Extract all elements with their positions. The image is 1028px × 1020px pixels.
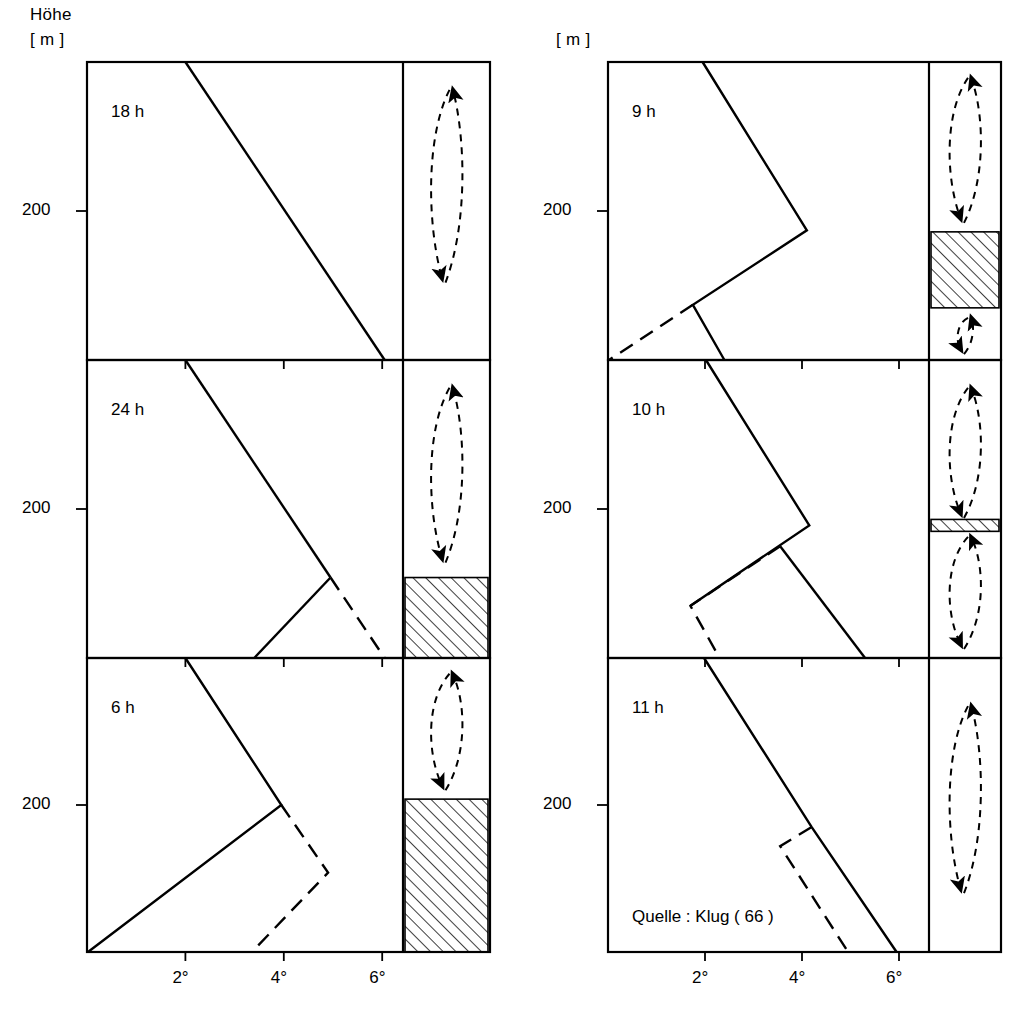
y-tick-label-200: 200 bbox=[543, 200, 571, 220]
x-tick-label-2°: 2° bbox=[172, 968, 188, 988]
x-tick-label-6°: 6° bbox=[369, 968, 385, 988]
circulation-down-arc bbox=[950, 78, 968, 217]
profile-line-dashed bbox=[609, 305, 693, 360]
x-tick-label-4°: 4° bbox=[271, 968, 287, 988]
inversion-band bbox=[931, 519, 999, 531]
y-tick-label-200: 200 bbox=[543, 794, 571, 814]
profile-line-dashed bbox=[252, 805, 328, 952]
circulation-up-arc bbox=[964, 539, 981, 649]
figure-canvas bbox=[0, 0, 1028, 1020]
panel-label-6h: 6 h bbox=[111, 698, 135, 718]
y-tick-label-200: 200 bbox=[22, 794, 50, 814]
circulation-up-arc bbox=[446, 92, 463, 283]
figure-root: Höhe [ m ] [ m ] 20018 h20024 h2002°4°6°… bbox=[0, 0, 1028, 1020]
circulation-up-arc bbox=[446, 676, 463, 791]
y-tick-label-200: 200 bbox=[543, 498, 571, 518]
circulation-down-arc bbox=[431, 90, 449, 277]
profile-line-solid bbox=[185, 360, 330, 578]
circulation-down-arc bbox=[431, 674, 449, 785]
panel-frame bbox=[608, 62, 1001, 360]
circulation-up-arc bbox=[964, 708, 981, 893]
profile-line-solid bbox=[690, 360, 809, 606]
circulation-up-arc bbox=[964, 320, 973, 354]
circulation-down-arc bbox=[950, 388, 968, 512]
circulation-up-arc bbox=[964, 390, 981, 518]
panel-label-11h: 11 h bbox=[632, 698, 664, 718]
circulation-up-arc bbox=[964, 80, 981, 223]
inversion-band bbox=[931, 232, 999, 308]
panel-frame bbox=[608, 360, 1001, 658]
profile-line-solid bbox=[693, 62, 807, 360]
x-tick-label-4°: 4° bbox=[789, 968, 805, 988]
profile-line-dashed bbox=[780, 827, 848, 952]
circulation-down-arc bbox=[950, 537, 968, 643]
profile-line-solid bbox=[254, 578, 330, 658]
y-tick-label-200: 200 bbox=[22, 200, 50, 220]
source-label: Quelle : Klug ( 66 ) bbox=[632, 907, 774, 927]
circulation-down-arc bbox=[950, 706, 968, 887]
y-tick-label-200: 200 bbox=[22, 498, 50, 518]
profile-line-solid bbox=[780, 546, 865, 658]
x-tick-label-6°: 6° bbox=[886, 968, 902, 988]
profile-line-dashed bbox=[331, 578, 385, 658]
x-tick-label-2°: 2° bbox=[692, 968, 708, 988]
profile-line-dashed bbox=[690, 546, 780, 658]
panel-label-9h: 9 h bbox=[632, 102, 656, 122]
circulation-down-arc bbox=[958, 318, 968, 348]
inversion-band bbox=[405, 578, 488, 658]
circulation-down-arc bbox=[431, 388, 449, 557]
inversion-band bbox=[405, 799, 488, 952]
panel-label-18h: 18 h bbox=[111, 102, 144, 122]
panel-label-24h: 24 h bbox=[111, 400, 144, 420]
circulation-up-arc bbox=[446, 390, 463, 563]
profile-line-solid bbox=[185, 62, 384, 360]
panel-frame bbox=[87, 62, 490, 360]
panel-label-10h: 10 h bbox=[632, 400, 665, 420]
